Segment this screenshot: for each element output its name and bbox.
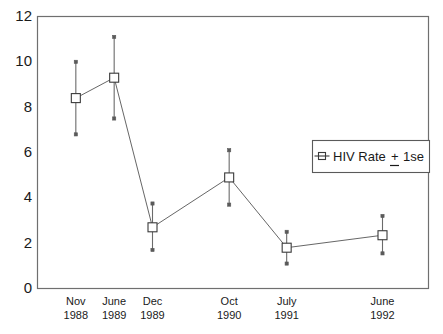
y-tick-label-6: 6 <box>24 143 32 160</box>
hiv-rate-chart: 0 2 4 6 8 10 12 Nov1988June1989Dec1989Oc… <box>0 0 443 334</box>
y-tick-label-2: 2 <box>24 234 32 251</box>
error-bar-cap-upper <box>113 35 116 38</box>
x-tick-year-2: 1989 <box>140 309 164 321</box>
legend[interactable]: HIV Rate + 1se <box>313 141 430 173</box>
error-bar-cap-lower <box>113 117 116 120</box>
data-point-marker[interactable] <box>378 231 387 240</box>
data-point-marker[interactable] <box>110 73 119 82</box>
error-bar-cap-lower <box>285 262 288 265</box>
legend-label-error: 1se <box>403 149 424 164</box>
error-bar-cap-upper <box>228 149 231 152</box>
x-tick-month-5: June <box>371 295 395 307</box>
y-tick-label-4: 4 <box>24 188 32 205</box>
x-tick-year-1: 1989 <box>102 309 126 321</box>
chart-canvas: 0 2 4 6 8 10 12 Nov1988June1989Dec1989Oc… <box>0 0 443 334</box>
error-bar-cap-lower <box>151 248 154 251</box>
x-tick-year-5: 1992 <box>370 309 394 321</box>
x-tick-month-3: Oct <box>221 295 238 307</box>
x-tick-month-4: July <box>277 295 297 307</box>
error-bar-cap-lower <box>381 252 384 255</box>
x-tick-year-0: 1988 <box>64 309 88 321</box>
error-bar-cap-upper <box>381 214 384 217</box>
legend-label-plusminus: + <box>391 149 399 164</box>
y-tick-label-10: 10 <box>15 52 32 69</box>
error-bar-cap-upper <box>151 202 154 205</box>
y-tick-label-12: 12 <box>15 7 32 24</box>
y-tick-label-0: 0 <box>24 279 32 296</box>
error-bar-cap-lower <box>228 203 231 206</box>
y-tick-label-8: 8 <box>24 98 32 115</box>
data-point-marker[interactable] <box>225 173 234 182</box>
error-bar-cap-upper <box>74 60 77 63</box>
error-bar-cap-upper <box>285 230 288 233</box>
legend-label-main: HIV Rate <box>333 149 386 164</box>
data-point-marker[interactable] <box>282 243 291 252</box>
x-tick-month-2: Dec <box>143 295 163 307</box>
data-point-marker[interactable] <box>148 223 157 232</box>
x-axis-tick-labels: Nov1988June1989Dec1989Oct1990July1991Jun… <box>64 295 395 321</box>
x-tick-month-1: June <box>102 295 126 307</box>
x-tick-year-3: 1990 <box>217 309 241 321</box>
error-bar-cap-lower <box>74 133 77 136</box>
data-point-marker[interactable] <box>71 94 80 103</box>
x-tick-month-0: Nov <box>66 295 86 307</box>
x-tick-year-4: 1991 <box>274 309 298 321</box>
y-axis-tick-labels: 0 2 4 6 8 10 12 <box>15 7 32 296</box>
